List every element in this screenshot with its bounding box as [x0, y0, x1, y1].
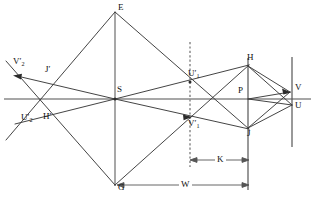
ray-P-to-U: [248, 99, 292, 105]
dimension-label-W: W: [179, 180, 192, 189]
point-label-G: G: [118, 183, 125, 192]
ray-J-to-V: [248, 92, 290, 128]
point-label-U1-prime-sub: 1: [196, 72, 199, 79]
point-label-J-prime: J′: [45, 65, 50, 74]
dimension-label-K: K: [215, 155, 226, 164]
ray-diagram-canvas: [0, 0, 315, 207]
point-label-J: J: [247, 129, 251, 138]
ray-upper-left-to-G: [6, 61, 115, 185]
point-label-H: H: [247, 53, 254, 62]
prime-mark: ′: [50, 111, 52, 121]
point-label-V2-prime-sub: 2: [21, 60, 24, 67]
point-label-J-prime-text: J: [45, 64, 49, 74]
prime-mark: ′: [49, 64, 51, 74]
node-dot-U1p: [189, 81, 192, 84]
dimension-K-arrow-left-icon: [190, 158, 197, 163]
point-label-H-prime-text: H: [43, 111, 50, 121]
point-label-V2-prime-text: V: [13, 56, 20, 66]
point-label-U2-prime: U′2: [21, 113, 33, 122]
point-label-V1-prime-text: V: [188, 118, 195, 128]
point-label-H-prime: H′: [43, 112, 51, 121]
point-label-S: S: [117, 85, 122, 94]
point-label-E: E: [118, 3, 124, 12]
point-label-U1-prime: U′1: [188, 69, 200, 78]
ray-H-to-V: [248, 66, 290, 92]
node-dot-S: [114, 98, 117, 101]
ray-J-to-U: [248, 105, 292, 128]
point-label-V1-prime: V′1: [188, 119, 200, 128]
point-label-V2-prime: V′2: [13, 57, 25, 66]
point-label-V: V: [295, 83, 302, 92]
ray-G-to-H: [115, 65, 249, 185]
point-label-V1-prime-sub: 1: [196, 122, 199, 129]
arrowhead-V2p-icon: [13, 74, 22, 80]
point-label-U2-prime-text: U: [21, 112, 28, 122]
ray-S-back-to-V2p: [17, 76, 115, 99]
ray-diagram-figure: E G S H J P V U J′ H′ V′2 U′2 U′1 V′1 W …: [0, 0, 315, 207]
point-label-U1-prime-text: U: [188, 68, 195, 78]
point-label-P: P: [238, 86, 243, 95]
point-label-U2-prime-sub: 2: [29, 116, 32, 123]
point-label-U: U: [295, 101, 302, 110]
